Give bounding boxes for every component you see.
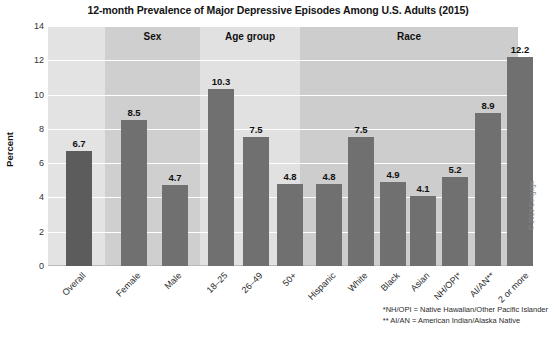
gridline-10 [48, 95, 518, 96]
y-tick-2: 2 [2, 227, 44, 237]
band-label-race: Race [300, 31, 518, 42]
bar-female[interactable]: 8.5 [121, 120, 147, 266]
bar-value-female: 8.5 [127, 107, 140, 118]
y-axis: Percent 0 2 4 6 8 10 12 14 [0, 26, 44, 266]
bar-value-26-49: 7.5 [249, 124, 262, 135]
bar-value-2-or-more: 12.2 [511, 44, 530, 55]
bar-18-25[interactable]: 10.3 [208, 89, 234, 266]
copyright-credit: © 2019 Cengage [528, 181, 535, 230]
bar-value-hispanic: 4.8 [322, 171, 335, 182]
bar-overall[interactable]: 6.7 [66, 151, 92, 266]
bar-value-nh-opi: 5.2 [448, 164, 461, 175]
chart-title: 12-month Prevalence of Major Depressive … [0, 4, 556, 16]
gridline-12 [48, 60, 518, 61]
bar-black[interactable]: 4.9 [380, 182, 406, 266]
y-tick-6: 6 [2, 158, 44, 168]
y-tick-4: 4 [2, 192, 44, 202]
chart-figure: 12-month Prevalence of Major Depressive … [0, 0, 556, 347]
bar-2-or-more[interactable]: 12.2 [507, 57, 533, 266]
y-tick-0: 0 [2, 261, 44, 271]
y-tick-12: 12 [2, 55, 44, 65]
y-axis-title: Percent [4, 110, 15, 190]
plot-area: Sex Age group Race 6.7 8.5 4.7 10.3 [48, 26, 518, 266]
footnote-ai-an: ** AI/AN = American Indian/Alaska Native [383, 316, 548, 327]
gridline-8 [48, 129, 518, 130]
bar-50-plus[interactable]: 4.8 [277, 184, 303, 266]
bar-asian[interactable]: 4.1 [410, 196, 436, 266]
gridline-14 [48, 26, 518, 27]
band-label-sex: Sex [105, 31, 200, 42]
bar-value-black: 4.9 [386, 169, 399, 180]
footnotes: *NH/OPI = Native Hawaiian/Other Pacific … [383, 305, 548, 326]
y-tick-14: 14 [2, 21, 44, 31]
y-tick-8: 8 [2, 124, 44, 134]
bar-value-50-plus: 4.8 [283, 171, 296, 182]
bar-value-18-25: 10.3 [212, 76, 231, 87]
bar-value-asian: 4.1 [416, 183, 429, 194]
bar-ai-an[interactable]: 8.9 [475, 113, 501, 266]
bar-value-male: 4.7 [168, 172, 181, 183]
bar-value-overall: 6.7 [72, 138, 85, 149]
bar-nh-opi[interactable]: 5.2 [442, 177, 468, 266]
bar-value-white: 7.5 [354, 124, 367, 135]
y-tick-10: 10 [2, 90, 44, 100]
bar-26-49[interactable]: 7.5 [243, 137, 269, 266]
bar-value-ai-an: 8.9 [481, 100, 494, 111]
bar-male[interactable]: 4.7 [162, 185, 188, 266]
band-label-age-group: Age group [200, 31, 300, 42]
bar-hispanic[interactable]: 4.8 [316, 184, 342, 266]
footnote-nh-opi: *NH/OPI = Native Hawaiian/Other Pacific … [383, 305, 548, 316]
